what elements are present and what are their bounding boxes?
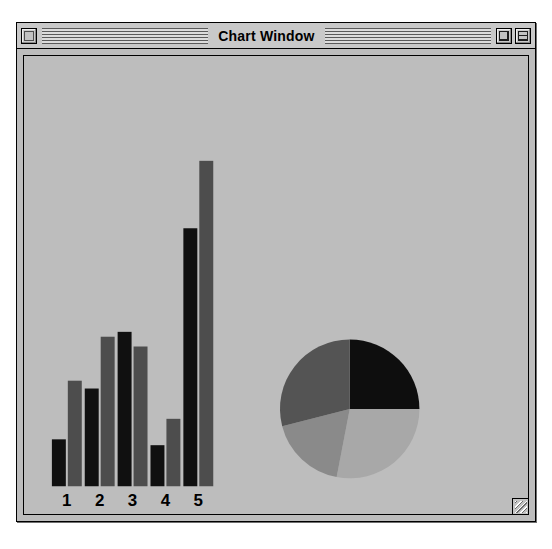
close-box[interactable] bbox=[21, 28, 37, 44]
chart-window[interactable]: Chart Window 12345 bbox=[16, 22, 536, 522]
collapse-box[interactable] bbox=[515, 28, 531, 44]
bar-tick-label-1: 1 bbox=[62, 491, 71, 510]
pie-slice-slice-1 bbox=[350, 340, 420, 409]
zoom-box[interactable] bbox=[496, 28, 512, 44]
bar-chart bbox=[52, 161, 213, 486]
bar-5-series-b bbox=[199, 161, 213, 486]
bar-tick-label-3: 3 bbox=[128, 491, 137, 510]
pie-slice-slice-2 bbox=[337, 409, 420, 478]
bar-tick-label-2: 2 bbox=[95, 491, 104, 510]
bar-4-series-a bbox=[150, 445, 164, 486]
window-title: Chart Window bbox=[213, 28, 319, 44]
bar-tick-label-4: 4 bbox=[161, 491, 171, 510]
bar-3-series-a bbox=[118, 332, 132, 486]
title-bar-stripes-right bbox=[325, 28, 491, 44]
window-content-area: 12345 bbox=[23, 55, 529, 515]
bar-4-series-b bbox=[166, 419, 180, 486]
bar-2-series-b bbox=[101, 337, 115, 487]
bar-1-series-a bbox=[52, 439, 66, 486]
grow-box[interactable] bbox=[512, 498, 528, 514]
bar-chart-tick-labels: 12345 bbox=[62, 491, 203, 510]
bar-tick-label-5: 5 bbox=[194, 491, 203, 510]
chart-canvas: 12345 bbox=[24, 56, 528, 514]
bar-5-series-a bbox=[183, 228, 197, 486]
bar-3-series-b bbox=[134, 347, 148, 487]
bar-1-series-b bbox=[68, 381, 82, 487]
pie-chart bbox=[280, 340, 419, 479]
bar-2-series-a bbox=[85, 389, 99, 487]
window-title-bar[interactable]: Chart Window bbox=[17, 23, 535, 49]
screen-backdrop: Chart Window 12345 bbox=[0, 0, 552, 549]
title-bar-stripes-left bbox=[42, 28, 208, 44]
